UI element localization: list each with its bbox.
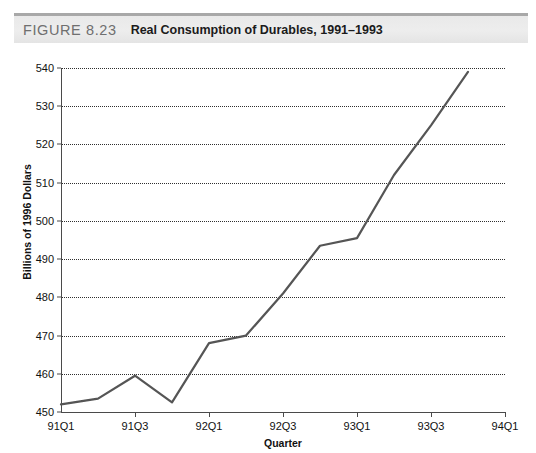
y-tick-label: 490 xyxy=(36,253,54,265)
y-axis-title: Billions of 1996 Dollars xyxy=(21,137,33,307)
y-tick-label: 500 xyxy=(36,215,54,227)
figure-number-label: FIGURE 8.23 xyxy=(14,22,117,38)
figure-title: Real Consumption of Durables, 1991–1993 xyxy=(117,23,383,37)
x-tick-mark xyxy=(283,412,284,417)
x-tick-mark xyxy=(431,412,432,417)
y-tick-label: 520 xyxy=(36,138,54,150)
y-tick-label: 530 xyxy=(36,100,54,112)
x-tick-label: 93Q1 xyxy=(344,420,371,432)
figure-header-banner: FIGURE 8.23 Real Consumption of Durables… xyxy=(14,13,528,43)
x-tick-label: 91Q3 xyxy=(122,420,149,432)
chart-area: Billions of 1996 Dollars 450460470480490… xyxy=(0,48,536,453)
x-tick-mark xyxy=(505,412,506,417)
x-tick-label: 91Q1 xyxy=(48,420,75,432)
x-tick-label: 92Q1 xyxy=(196,420,223,432)
y-tick-label: 460 xyxy=(36,368,54,380)
x-axis-title: Quarter xyxy=(61,437,505,449)
y-tick-label: 510 xyxy=(36,177,54,189)
y-tick-label: 480 xyxy=(36,291,54,303)
data-series-line xyxy=(61,68,505,412)
x-tick-mark xyxy=(135,412,136,417)
y-tick-label: 450 xyxy=(36,406,54,418)
plot-region: 450460470480490500510520530540 91Q191Q39… xyxy=(61,68,505,412)
x-tick-label: 92Q3 xyxy=(270,420,297,432)
x-tick-mark xyxy=(357,412,358,417)
x-tick-label: 94Q1 xyxy=(492,420,519,432)
x-tick-mark xyxy=(209,412,210,417)
x-tick-label: 93Q3 xyxy=(418,420,445,432)
y-tick-label: 470 xyxy=(36,330,54,342)
y-tick-label: 540 xyxy=(36,62,54,74)
